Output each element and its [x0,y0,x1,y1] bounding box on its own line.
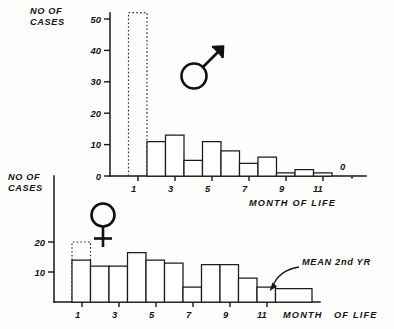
female-bar-month-3 [91,266,110,302]
female-bars [72,242,312,302]
female-bar-month-10 [220,265,239,303]
male-xtick-3: 3 [168,183,174,194]
female-bar-month-4 [109,266,128,302]
male-bar-month-10 [295,170,314,176]
female-xtick-5: 5 [149,309,155,320]
male-y-axis-label-line1: NO OF [30,6,62,16]
male-ytick-10: 10 [91,139,102,150]
female-bar-month-2 [72,260,91,302]
male-bar-month-6 [221,151,240,176]
female-bar-month-7 [165,263,184,302]
female-ytick-10: 10 [35,267,46,278]
male-bar-month-1-dotted [129,13,148,176]
two-panel-histogram-figure: NO OF CASES 0 10 20 30 40 50 1 3 [0,0,394,329]
male-y-ticks [104,19,110,176]
female-xtick-7: 7 [186,309,192,320]
male-bar-month-4 [184,160,203,176]
female-bar-month-6 [146,260,165,302]
male-bar-month-3 [166,135,185,176]
female-xtick-1: 1 [75,309,80,320]
mars-male-symbol [182,47,224,89]
mean-2nd-year-annotation: MEAN 2nd YR [302,257,371,267]
male-ytick-30: 30 [91,76,102,87]
venus-female-symbol [92,204,115,248]
male-bar-month-8 [258,157,277,176]
male-bars [129,13,333,176]
female-y-ticks [48,242,54,272]
female-bar-month-11 [239,278,258,302]
mean-2nd-year-leader-line [273,267,299,286]
male-xtick-1: 1 [131,183,136,194]
female-bar-month-5 [128,253,147,303]
male-y-axis-label-line2: CASES [30,17,65,27]
male-bar-month-5 [203,142,222,177]
male-ytick-0: 0 [96,171,102,182]
female-y-axis-label-line1: NO OF [8,172,40,182]
male-ytick-20: 20 [90,108,102,119]
male-xtick-7: 7 [242,183,248,194]
male-bar-month-11 [314,173,333,176]
male-tail-dot [351,177,353,179]
female-xtick-9: 9 [223,309,229,320]
female-bar-mean-2nd-year [276,289,313,303]
male-bar-month-9 [277,173,296,176]
female-y-axis-label-line2: CASES [8,183,43,193]
female-x-axis-title-part2: OF LIFE [334,310,378,320]
female-bar-month-8 [183,287,202,302]
male-bar-month-7 [240,163,259,176]
male-x-axis-title: MONTH OF LIFE [249,198,336,208]
female-bar-month-12 [257,287,276,302]
male-xtick-9: 9 [279,183,285,194]
male-xtick-5: 5 [205,183,211,194]
female-x-axis-title-part1: MONTH [283,310,323,320]
male-ytick-40: 40 [90,45,102,56]
female-ytick-20: 20 [34,237,46,248]
male-xtick-11: 11 [313,183,323,194]
female-bar-month-9 [202,265,221,303]
male-bar-month-2 [147,142,166,177]
male-ytick-50: 50 [91,14,102,25]
female-xtick-3: 3 [112,309,118,320]
female-xtick-11: 11 [257,309,267,320]
female-panel: NO OF CASES 10 20 1 3 5 7 9 11 MONTH OF … [8,172,378,320]
male-zero-marker: 0 [340,161,346,172]
male-panel: NO OF CASES 0 10 20 30 40 50 1 3 [30,6,366,208]
